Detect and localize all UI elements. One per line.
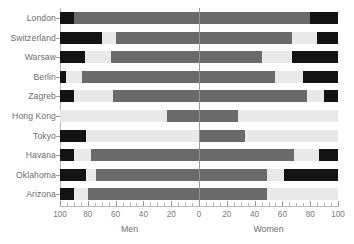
category-label-hong-kong: Hong Kong: [0, 111, 56, 123]
bar-segment-women-dark-gray: [199, 12, 310, 24]
value-tick-label-men-20: 20: [157, 210, 185, 219]
value-tick-minor: [317, 203, 318, 206]
bar-segment-men-light-gray: [102, 32, 116, 44]
bar-segment-men-black: [60, 32, 102, 44]
bar-segment-men-dark-gray: [88, 188, 199, 200]
bar-segment-women-light-gray: [267, 169, 284, 181]
bar-segment-women-black: [324, 90, 338, 102]
value-tick-minor: [303, 203, 304, 206]
axis-title-women: Women: [239, 224, 299, 234]
bar-segment-men-light-gray: [74, 90, 113, 102]
bar-segment-women-black: [292, 51, 338, 63]
bar-segment-men-dark-gray: [111, 51, 199, 63]
category-label-text: Havana: [0, 150, 56, 160]
value-tick-minor: [123, 203, 124, 206]
bar-segment-men-dark-gray: [91, 149, 199, 161]
bar-segment-men-light-gray: [60, 110, 167, 122]
value-tick-label-men-100: 100: [46, 210, 74, 219]
value-tick-minor: [331, 203, 332, 206]
value-tick-minor: [248, 203, 249, 206]
bar-segment-women-dark-gray: [199, 32, 292, 44]
value-tick-major: [60, 201, 61, 206]
category-label-text: Berlin: [0, 72, 56, 82]
value-tick-minor: [206, 203, 207, 206]
category-label-havana: Havana: [0, 150, 56, 162]
value-tick-minor: [234, 203, 235, 206]
bar-segment-women-dark-gray: [199, 51, 262, 63]
bar-segment-men-dark-gray: [167, 110, 199, 122]
bar-segment-men-black: [60, 12, 74, 24]
value-tick-label-women-20: 20: [213, 210, 241, 219]
bar-segment-men-dark-gray: [113, 90, 199, 102]
bar-segment-men-black: [60, 169, 86, 181]
category-label-text: Arizona: [0, 189, 56, 199]
value-tick-minor: [130, 203, 131, 206]
bar-segment-women-dark-gray: [199, 169, 267, 181]
category-label-text: Hong Kong: [0, 111, 56, 121]
bar-segment-women-light-gray: [307, 90, 324, 102]
value-tick-minor: [109, 203, 110, 206]
category-label-text: Warsaw: [0, 52, 56, 62]
category-label-zagreb: Zagreb: [0, 91, 56, 103]
bar-segment-men-light-gray: [74, 149, 91, 161]
value-tick-major: [227, 201, 228, 206]
bar-segment-men-black: [60, 51, 85, 63]
bar-segment-women-light-gray: [275, 71, 303, 83]
bar-segment-women-light-gray: [294, 149, 319, 161]
category-label-text: Tokyo: [0, 131, 56, 141]
value-tick-minor: [275, 203, 276, 206]
bar-segment-men-black: [60, 90, 74, 102]
value-tick-minor: [185, 203, 186, 206]
value-tick-minor: [178, 203, 179, 206]
value-tick-minor: [213, 203, 214, 206]
value-tick-minor: [102, 203, 103, 206]
category-label-warsaw: Warsaw: [0, 52, 56, 64]
value-tick-major: [199, 201, 200, 206]
value-tick-minor: [136, 203, 137, 206]
value-tick-label-women-60: 60: [268, 210, 296, 219]
value-tick-minor: [192, 203, 193, 206]
category-label-text: Zagreb: [0, 91, 56, 101]
bar-segment-women-light-gray: [267, 188, 338, 200]
bar-segment-women-dark-gray: [199, 71, 275, 83]
bar-segment-women-light-gray: [292, 32, 317, 44]
value-tick-minor: [95, 203, 96, 206]
value-tick-major: [282, 201, 283, 206]
bar-segment-women-dark-gray: [199, 149, 294, 161]
value-tick-minor: [262, 203, 263, 206]
value-tick-label-men-40: 40: [129, 210, 157, 219]
value-tick-label-women-80: 80: [296, 210, 324, 219]
bar-segment-men-dark-gray: [82, 71, 199, 83]
bar-segment-men-light-gray: [66, 71, 83, 83]
value-tick-label-men-80: 80: [74, 210, 102, 219]
value-tick-minor: [81, 203, 82, 206]
bar-segment-women-dark-gray: [199, 110, 238, 122]
category-label-text: Oklahoma: [0, 170, 56, 180]
value-tick-minor: [74, 203, 75, 206]
value-tick-minor: [289, 203, 290, 206]
value-tick-label-men-60: 60: [102, 210, 130, 219]
bar-segment-women-black: [310, 12, 338, 24]
value-tick-minor: [157, 203, 158, 206]
category-label-text: London: [0, 13, 56, 23]
value-tick-label-women-100: 100: [324, 210, 352, 219]
value-tick-major: [310, 201, 311, 206]
bar-segment-women-dark-gray: [199, 90, 307, 102]
bar-segment-women-black: [303, 71, 338, 83]
value-tick-minor: [241, 203, 242, 206]
bar-segment-men-black: [60, 149, 74, 161]
value-tick-minor: [296, 203, 297, 206]
value-tick-label-zero: 0: [185, 210, 213, 219]
bar-segment-women-dark-gray: [199, 130, 245, 142]
bar-segment-women-light-gray: [238, 110, 338, 122]
bar-segment-women-black: [319, 149, 338, 161]
bar-segment-women-light-gray: [245, 130, 338, 142]
diverging-bar-chart: LondonSwitzerlandWarsawBerlinZagrebHong …: [0, 0, 354, 244]
value-tick-minor: [150, 203, 151, 206]
bar-segment-men-light-gray: [86, 130, 199, 142]
category-label-tokyo: Tokyo: [0, 131, 56, 143]
bar-segment-women-dark-gray: [199, 188, 267, 200]
bar-segment-men-black: [60, 130, 86, 142]
value-tick-minor: [220, 203, 221, 206]
value-tick-major: [171, 201, 172, 206]
